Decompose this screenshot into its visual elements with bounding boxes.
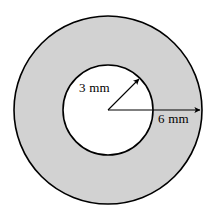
annulus-diagram: 3 mm 6 mm (0, 0, 212, 214)
annulus-figure (0, 0, 212, 214)
inner-radius-label: 3 mm (79, 81, 110, 94)
outer-radius-label: 6 mm (158, 112, 189, 125)
